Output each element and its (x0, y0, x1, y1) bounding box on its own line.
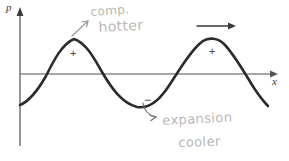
pressure-wave-figure: p x + + − comp. hotter expansion cooler (0, 0, 289, 161)
x-axis-label: x (272, 76, 277, 87)
y-axis-arrowhead-icon (17, 7, 24, 16)
leader-arrow-down-right-head-icon (150, 116, 156, 121)
plus-sign-first-crest: + (70, 48, 76, 59)
annotation-compression-line2: hotter (98, 18, 144, 35)
propagation-arrow-icon (228, 23, 236, 30)
plus-sign-second-crest: + (209, 46, 215, 57)
leader-arrow-up-right-icon (72, 21, 88, 36)
minus-sign-trough: − (144, 94, 151, 106)
annotation-compression-line1: comp. (90, 3, 130, 18)
y-axis-label: p (6, 2, 12, 13)
annotation-expansion-line2: cooler (178, 135, 221, 150)
figure-canvas (0, 0, 289, 161)
